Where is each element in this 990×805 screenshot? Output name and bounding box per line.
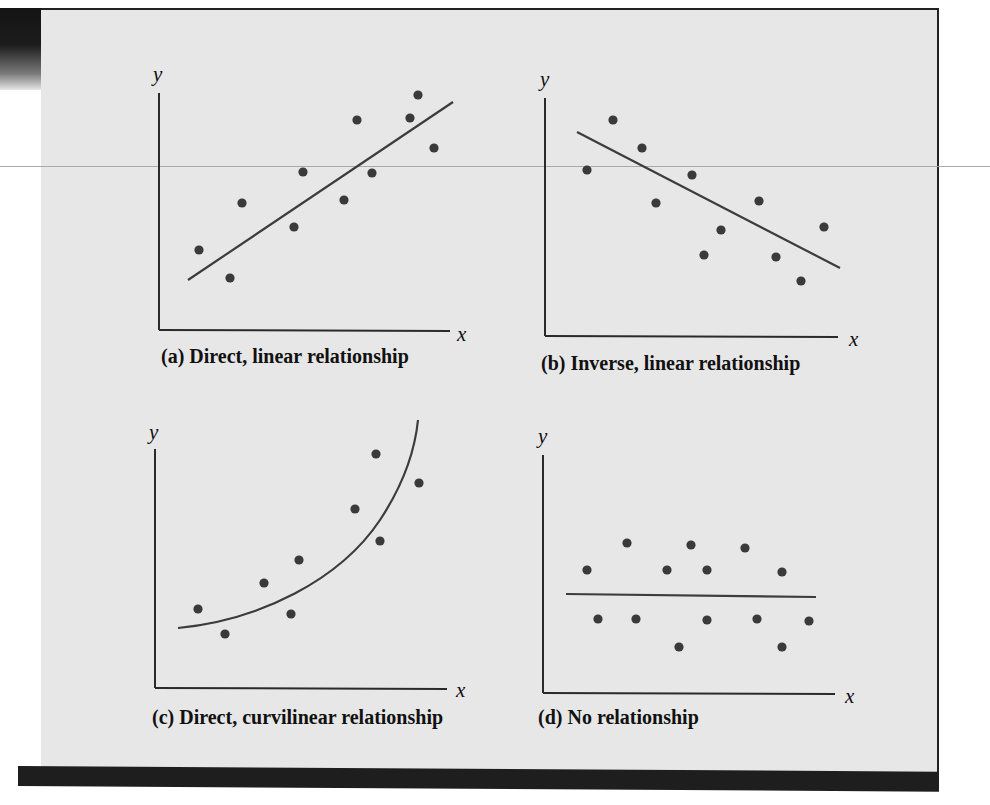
x-axis — [155, 688, 447, 689]
x-axis — [545, 336, 838, 337]
data-point — [220, 629, 229, 638]
trend-line — [566, 594, 816, 597]
data-point — [593, 614, 602, 623]
data-point — [631, 614, 640, 623]
scatter-plots-canvas — [0, 0, 990, 805]
data-point — [350, 504, 359, 513]
data-point — [294, 555, 303, 564]
data-point — [582, 565, 591, 574]
trend-line — [577, 132, 840, 268]
trend-curve — [178, 420, 418, 628]
chart-b-x-label: x — [849, 327, 858, 352]
chart-c-y-label: y — [149, 420, 158, 445]
data-point — [622, 538, 631, 547]
trend-line — [188, 102, 453, 280]
data-point — [259, 578, 268, 587]
data-point — [608, 115, 617, 124]
data-point — [371, 449, 380, 458]
chart-a-y-label: y — [153, 62, 162, 87]
data-point — [687, 170, 696, 179]
data-point — [298, 167, 307, 176]
data-point — [367, 168, 376, 177]
chart-c-x-label: x — [456, 678, 465, 703]
data-point — [752, 614, 761, 623]
data-point — [225, 273, 234, 282]
data-point — [740, 543, 749, 552]
data-point — [819, 222, 828, 231]
x-axis — [543, 693, 835, 694]
data-point — [796, 276, 805, 285]
data-point — [777, 642, 786, 651]
chart-b-caption: (b) Inverse, linear relationship — [541, 352, 800, 375]
data-point — [413, 90, 422, 99]
chart-a-x-label: x — [457, 322, 466, 347]
data-point — [754, 196, 763, 205]
data-point — [651, 198, 660, 207]
data-point — [662, 565, 671, 574]
data-point — [193, 604, 202, 613]
data-point — [777, 567, 786, 576]
data-point — [375, 536, 384, 545]
chart-a — [159, 90, 453, 331]
data-point — [237, 198, 246, 207]
data-point — [702, 615, 711, 624]
data-point — [582, 165, 591, 174]
data-point — [637, 143, 646, 152]
data-point — [699, 250, 708, 259]
chart-a-caption: (a) Direct, linear relationship — [161, 345, 409, 368]
chart-b — [545, 98, 840, 337]
data-point — [289, 222, 298, 231]
chart-d-x-label: x — [845, 684, 854, 709]
data-point — [405, 113, 414, 122]
data-point — [286, 609, 295, 618]
x-axis — [159, 330, 450, 331]
data-point — [702, 565, 711, 574]
data-point — [194, 245, 203, 254]
data-point — [429, 143, 438, 152]
chart-c — [155, 420, 447, 689]
data-point — [771, 252, 780, 261]
data-point — [352, 115, 361, 124]
chart-d — [543, 455, 835, 694]
data-point — [716, 225, 725, 234]
chart-d-caption: (d) No relationship — [538, 706, 699, 729]
data-point — [414, 478, 423, 487]
data-point — [804, 616, 813, 625]
chart-c-caption: (c) Direct, curvilinear relationship — [152, 706, 443, 729]
data-point — [674, 642, 683, 651]
data-point — [339, 195, 348, 204]
data-point — [686, 540, 695, 549]
chart-d-y-label: y — [538, 424, 547, 449]
chart-b-y-label: y — [540, 67, 549, 92]
